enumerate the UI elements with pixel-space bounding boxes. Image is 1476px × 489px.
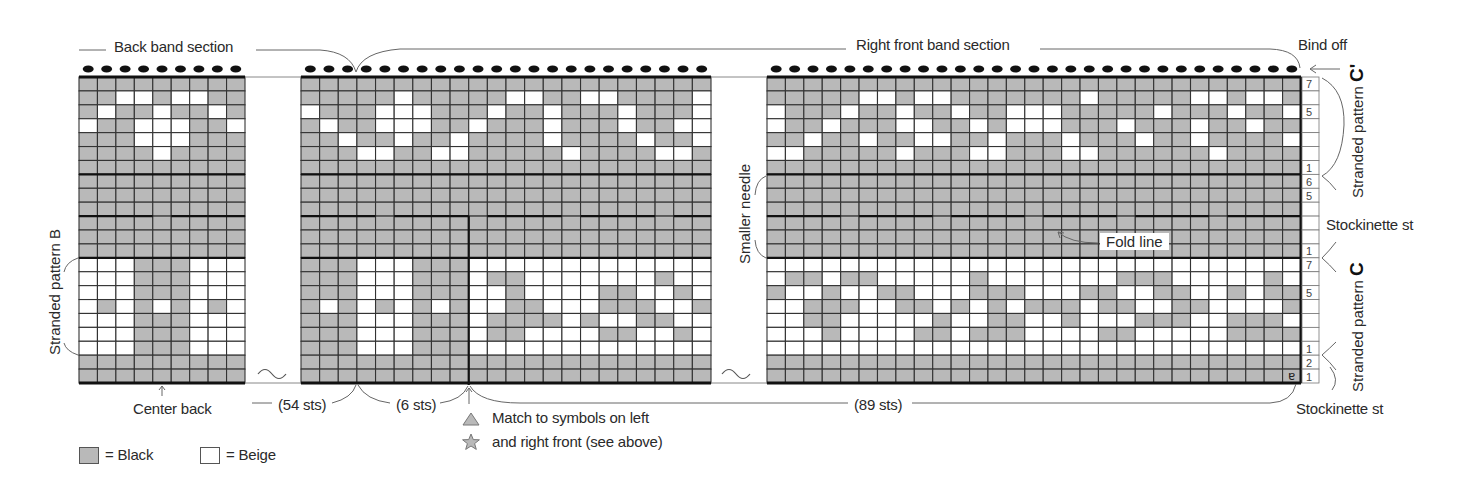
stockinette-lower-label: Stockinette st bbox=[1296, 400, 1383, 417]
stranded-pattern-c-label: Stranded pattern C bbox=[1346, 262, 1368, 392]
stockinette-upper-label: Stockinette st bbox=[1326, 216, 1413, 233]
back-band-label: Back band section bbox=[114, 38, 233, 55]
svg-text:7: 7 bbox=[1306, 78, 1312, 90]
fold-line-label: Fold line bbox=[1100, 233, 1169, 250]
stranded-pattern-b-label: Stranded pattern B bbox=[46, 229, 63, 355]
legend-black-label: = Black bbox=[105, 446, 153, 463]
smaller-needle-label: Smaller needle bbox=[736, 164, 753, 264]
sts-6-label: (6 sts) bbox=[396, 396, 436, 413]
star-icon bbox=[461, 432, 481, 452]
match-text-line2: and right front (see above) bbox=[492, 433, 663, 450]
bind-off-label: Bind off bbox=[1298, 36, 1347, 53]
triangle-icon bbox=[461, 410, 481, 430]
svg-text:5: 5 bbox=[1306, 287, 1312, 299]
svg-text:7: 7 bbox=[1306, 259, 1312, 271]
right-front-band-label: Right front band section bbox=[856, 36, 1010, 53]
legend-beige-label: = Beige bbox=[226, 446, 276, 463]
svg-text:1: 1 bbox=[1306, 371, 1312, 383]
sts-54-label: (54 sts) bbox=[278, 396, 326, 413]
legend-beige-swatch bbox=[200, 447, 220, 464]
svg-text:2: 2 bbox=[1306, 357, 1312, 369]
svg-text:1: 1 bbox=[1306, 245, 1312, 257]
svg-text:6: 6 bbox=[1306, 176, 1312, 188]
svg-text:1: 1 bbox=[1306, 162, 1312, 174]
sts-89-label: (89 sts) bbox=[854, 396, 902, 413]
svg-text:5: 5 bbox=[1306, 106, 1312, 118]
svg-text:5: 5 bbox=[1306, 190, 1312, 202]
match-text-line1: Match to symbols on left bbox=[492, 409, 649, 426]
center-back-label: Center back bbox=[133, 400, 212, 417]
svg-text:1: 1 bbox=[1306, 343, 1312, 355]
stranded-pattern-c-prime-label: Stranded pattern C' bbox=[1346, 64, 1368, 198]
legend-black-swatch bbox=[79, 447, 99, 464]
svg-text:ɐ: ɐ bbox=[1288, 369, 1295, 383]
